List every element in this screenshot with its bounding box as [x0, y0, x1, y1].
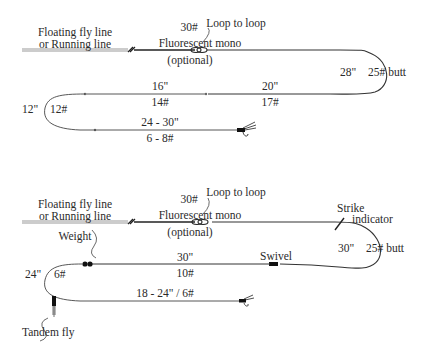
mono-label: Fluorescent mono	[159, 37, 242, 50]
strike-indicator-icon	[335, 218, 344, 230]
tippet-weight: 6 - 8#	[147, 132, 174, 145]
strike-indicator-label-line2: indicator	[352, 213, 393, 226]
section-24-length: 24"	[25, 268, 41, 281]
loop-to-loop-label: Loop to loop	[206, 186, 265, 199]
tandem-tippet-label: 18 - 24" / 6#	[136, 287, 194, 300]
tandem-fly-icon	[52, 296, 56, 317]
section-20-length: 20"	[262, 80, 278, 93]
section-12-weight: 12#	[50, 103, 67, 116]
knot-icon	[128, 219, 135, 224]
weight-label: Weight	[59, 230, 92, 243]
section-30-weight: 10#	[176, 267, 193, 280]
mono-optional-label: (optional)	[167, 54, 212, 67]
tandem-fly-label: Tandem fly	[22, 326, 75, 339]
mono-label: Fluorescent mono	[159, 209, 242, 222]
butt-weight-label: 25# butt	[366, 242, 404, 255]
butt-length-label: 30"	[338, 242, 354, 255]
mono-optional-label: (optional)	[167, 226, 212, 239]
mono-weight-label: 30#	[180, 21, 197, 34]
tippet-length: 24 - 30"	[141, 116, 178, 129]
fly-icon	[237, 122, 256, 136]
fly-line-label-line2: or Running line	[39, 38, 111, 51]
leader-diagram	[0, 0, 431, 347]
butt-weight-label: 25# butt	[368, 66, 406, 79]
butt-section-1	[207, 50, 387, 94]
mono-weight-label: 30#	[180, 193, 197, 206]
section-30-length: 30"	[177, 251, 193, 264]
swivel-label: Swivel	[260, 250, 292, 263]
section-16-length: 16"	[152, 80, 168, 93]
knot-icon	[128, 47, 135, 52]
butt-section-2	[212, 222, 381, 268]
blood-knot-icon	[205, 93, 207, 95]
weight-icon	[82, 261, 92, 266]
section-20-weight: 17#	[261, 96, 278, 109]
butt-length-label: 28"	[340, 66, 356, 79]
fly-icon	[239, 295, 254, 306]
fly-line-label-line2: or Running line	[39, 210, 111, 223]
loop-to-loop-label: Loop to loop	[206, 17, 265, 30]
section-16-weight: 14#	[151, 96, 168, 109]
section-24-weight: 6#	[54, 268, 66, 281]
weight-pointer	[91, 230, 96, 258]
section-12-length: 12"	[22, 103, 38, 116]
